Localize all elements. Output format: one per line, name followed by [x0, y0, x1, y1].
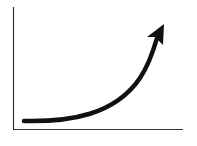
growth-chart — [0, 0, 197, 146]
growth-curve — [24, 38, 157, 121]
